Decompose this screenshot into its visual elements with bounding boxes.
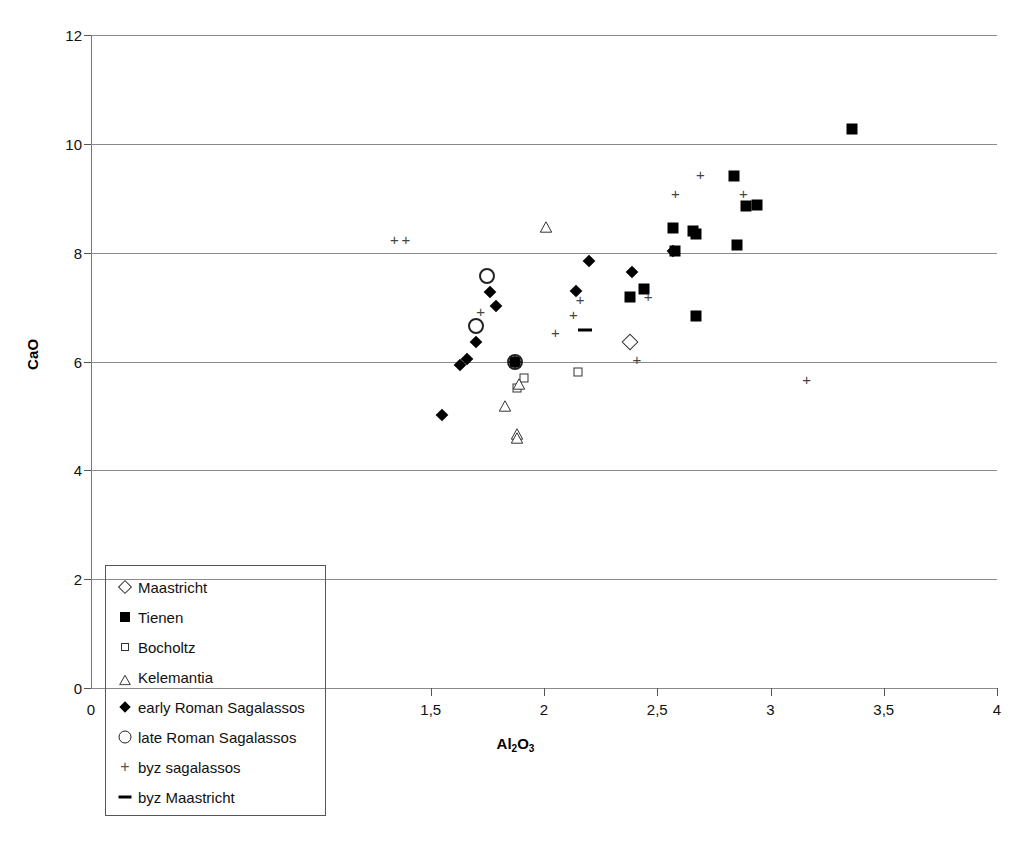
legend-swatch	[116, 788, 134, 806]
legend-item-label: Bocholtz	[138, 640, 196, 655]
legend-item-byz-maastricht[interactable]: byz Maastricht	[116, 782, 325, 812]
legend-item-label: late Roman Sagalassos	[138, 730, 296, 745]
legend-item-label: early Roman Sagalassos	[138, 700, 305, 715]
marker-filled-diamond-icon	[119, 701, 130, 712]
marker-plus-icon: +	[118, 760, 132, 774]
legend-item-late-roman-sagalassos[interactable]: late Roman Sagalassos	[116, 722, 325, 752]
legend-item-label: Kelemantia	[138, 670, 213, 685]
legend-item-maastricht[interactable]: Maastricht	[116, 572, 325, 602]
marker-open-diamond-icon	[118, 580, 132, 594]
legend-swatch	[116, 608, 134, 626]
chart-page: CaO 024681012 01,522,533,54 Al2O3 Maastr…	[0, 0, 1031, 866]
legend-swatch: +	[116, 758, 134, 776]
legend-item-early-roman-sagalassos[interactable]: early Roman Sagalassos	[116, 692, 325, 722]
legend-swatch	[116, 728, 134, 746]
x-axis-title-text: Al2O3	[497, 735, 535, 752]
legend-item-byz-sagalassos[interactable]: +byz sagalassos	[116, 752, 325, 782]
legend-item-label: Maastricht	[138, 580, 207, 595]
marker-dash-icon	[119, 796, 132, 799]
marker-open-triangle-icon	[119, 672, 131, 683]
legend-item-kelemantia[interactable]: Kelemantia	[116, 662, 325, 692]
legend-swatch	[116, 698, 134, 716]
marker-dash	[578, 329, 592, 332]
legend-swatch	[116, 578, 134, 596]
legend-item-label: Tienen	[138, 610, 183, 625]
legend-item-bocholtz[interactable]: Bocholtz	[116, 632, 325, 662]
legend-swatch	[116, 668, 134, 686]
marker-open-circle-icon	[119, 731, 132, 744]
legend-item-label: byz sagalassos	[138, 760, 241, 775]
legend-item-label: byz Maastricht	[138, 790, 235, 805]
legend-item-tienen[interactable]: Tienen	[116, 602, 325, 632]
legend-swatch	[116, 638, 134, 656]
marker-open-square-icon	[121, 643, 129, 651]
marker-filled-square-icon	[120, 612, 130, 622]
legend: MaastrichtTienenBocholtzKelemantiaearly …	[105, 565, 326, 816]
